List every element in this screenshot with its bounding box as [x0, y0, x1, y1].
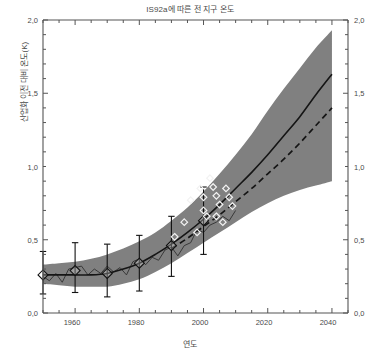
uncertainty-band [43, 30, 332, 287]
chart-figure: IS92a에 따른 전 지구 온도 산업화 이전 대비 온도(K) 연도 2,0… [0, 0, 380, 359]
plot-canvas [0, 0, 380, 359]
